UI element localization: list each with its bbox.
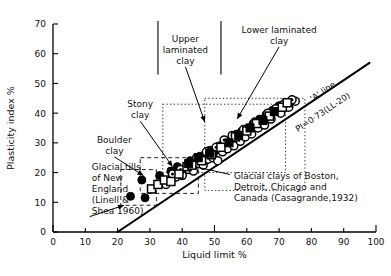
annotation-line: Stony bbox=[127, 99, 153, 109]
data-point bbox=[185, 160, 193, 168]
annotation-line: clay bbox=[105, 146, 124, 156]
y-tick-label: 10 bbox=[35, 198, 47, 208]
data-point-center bbox=[171, 173, 174, 176]
data-point bbox=[138, 176, 146, 184]
annotation-line: England bbox=[92, 184, 129, 194]
plasticity-chart-figure: 'A' linePI=0·73(LL-20) 01020304050607080… bbox=[0, 0, 391, 276]
x-tick-label: 90 bbox=[338, 237, 350, 247]
annotation-line: of New bbox=[92, 173, 123, 183]
data-point bbox=[225, 139, 233, 147]
y-tick-label: 0 bbox=[40, 227, 46, 237]
data-point bbox=[246, 124, 254, 132]
x-tick-label: 10 bbox=[80, 237, 92, 247]
y-axis-title: Plasticity index % bbox=[5, 86, 16, 170]
y-tick-label: 40 bbox=[35, 109, 47, 119]
casagrande-plasticity-chart: 'A' linePI=0·73(LL-20) 01020304050607080… bbox=[0, 0, 391, 276]
x-tick-label: 20 bbox=[112, 237, 124, 247]
data-point bbox=[235, 131, 243, 139]
data-point bbox=[217, 143, 225, 151]
data-point bbox=[175, 170, 183, 178]
x-tick-label: 30 bbox=[144, 237, 156, 247]
annotation-line: clay bbox=[176, 56, 195, 66]
data-point bbox=[141, 194, 149, 202]
annotation-line: clay bbox=[270, 36, 289, 46]
data-point bbox=[167, 177, 175, 185]
data-point bbox=[259, 117, 267, 125]
data-point bbox=[206, 149, 214, 157]
annotation-line: (Linell & bbox=[92, 195, 129, 205]
data-point bbox=[283, 99, 291, 107]
annotation-line: laminated bbox=[163, 45, 208, 55]
y-tick-label: 70 bbox=[35, 19, 47, 29]
y-tick-label: 20 bbox=[35, 168, 47, 178]
y-tick-label: 50 bbox=[35, 79, 47, 89]
annotation-line: Lower laminated bbox=[242, 25, 317, 35]
x-tick-label: 70 bbox=[273, 237, 285, 247]
data-point bbox=[194, 154, 202, 162]
x-tick-label: 40 bbox=[176, 237, 188, 247]
data-point bbox=[270, 108, 278, 116]
annotation-line: Detroit, Chicago and bbox=[234, 182, 327, 192]
annotation-line: Glacial clays of Boston, bbox=[234, 171, 339, 181]
y-axis-title-group: Plasticity index % bbox=[5, 86, 16, 170]
y-tick-label: 60 bbox=[35, 49, 47, 59]
annotation-line: clay bbox=[131, 110, 150, 120]
x-tick-label: 60 bbox=[241, 237, 253, 247]
x-tick-label: 50 bbox=[209, 237, 221, 247]
x-tick-label: 100 bbox=[367, 237, 384, 247]
x-tick-label: 0 bbox=[50, 237, 56, 247]
x-axis-title: Liquid limit % bbox=[182, 249, 247, 260]
annotation-line: Upper bbox=[172, 34, 200, 44]
annotation-line: Canada (Casagrande,1932) bbox=[234, 193, 358, 203]
annotation-line: Glacial tills bbox=[92, 162, 141, 172]
annotation-line: Boulder bbox=[97, 135, 132, 145]
y-tick-label: 30 bbox=[35, 138, 47, 148]
x-tick-label: 80 bbox=[306, 237, 318, 247]
